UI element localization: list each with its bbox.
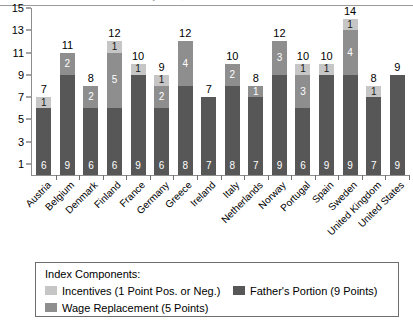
bar-segment-incentives: 1 [107, 41, 122, 52]
bar-group[interactable]: 167 [36, 8, 51, 175]
bar-stack: 1269 [154, 75, 169, 175]
bar-segment-value: 3 [295, 87, 310, 97]
bar-group[interactable]: 14914 [343, 8, 358, 175]
bar-segment-value: 1 [154, 75, 169, 85]
bar-group[interactable]: 268 [83, 8, 98, 175]
bar-segment-wage: 4 [178, 41, 193, 86]
bar-stack: 2911 [60, 53, 75, 175]
bar-segment-wage: 2 [83, 86, 98, 108]
bar-stack: 167 [36, 97, 51, 175]
bar-segment-father: 6 [295, 108, 310, 175]
bar-total-label: 10 [219, 51, 246, 62]
bar-total-label: 10 [313, 51, 340, 62]
bar-group[interactable]: 178 [366, 8, 381, 175]
bar-segment-value: 9 [60, 161, 75, 171]
bar-segment-father: 9 [390, 75, 405, 175]
bar-total-label: 9 [384, 62, 411, 73]
bar-segment-value: 1 [36, 98, 51, 108]
legend-label-wage-replacement: Wage Replacement (5 Points) [62, 302, 208, 314]
y-axis-tick-label: 7 [0, 92, 24, 103]
bar-segment-father: 6 [107, 108, 122, 175]
legend-title: Index Components: [45, 268, 140, 280]
legend-swatch-wage-replacement [45, 303, 57, 312]
legend-swatch-incentives [45, 286, 57, 295]
bar-segment-value: 4 [178, 59, 193, 69]
bar-segment-value: 8 [225, 161, 240, 171]
bar-stack: 14914 [343, 19, 358, 175]
bar-segment-value: 7 [366, 161, 381, 171]
bar-stack: 178 [248, 86, 263, 175]
bar-segment-value: 6 [83, 161, 98, 171]
bar-group[interactable]: 13610 [295, 8, 310, 175]
bar-group[interactable]: 1910 [131, 8, 146, 175]
bar-segment-value: 1 [107, 42, 122, 52]
bar-segment-father: 9 [60, 75, 75, 175]
bar-segment-value: 2 [225, 70, 240, 80]
bar-segment-wage: 2 [60, 53, 75, 75]
bar-segment-value: 9 [343, 161, 358, 171]
bar-segment-value: 6 [295, 161, 310, 171]
bar-segment-incentives: 1 [131, 64, 146, 75]
y-axis-tick-label: 9 [0, 70, 24, 81]
bar-segment-incentives: 1 [154, 75, 169, 86]
bar-group[interactable]: 15612 [107, 8, 122, 175]
bar-stack: 268 [83, 86, 98, 175]
bar-group[interactable]: 1910 [319, 8, 334, 175]
bar-group[interactable]: 77 [201, 8, 216, 175]
bar-segment-father: 7 [201, 97, 216, 175]
bar-group[interactable]: 3912 [272, 8, 287, 175]
bar-segment-value: 2 [83, 92, 98, 102]
bar-segment-wage: 3 [272, 41, 287, 74]
bar-group[interactable]: 99 [390, 8, 405, 175]
bar-segment-value: 9 [272, 161, 287, 171]
y-axis-tick-mark [26, 52, 31, 53]
y-axis-tick-mark [26, 163, 31, 164]
y-axis-tick-label: 15 [0, 3, 24, 14]
bar-group[interactable]: 2911 [60, 8, 75, 175]
bar-total-label: 12 [172, 28, 199, 39]
x-axis-label: Ireland [189, 180, 218, 209]
bar-total-label: 8 [242, 73, 269, 84]
bar-stack: 99 [390, 75, 405, 175]
bar-segment-father: 6 [36, 108, 51, 175]
legend-label-incentives: Incentives (1 Point Pos. or Neg.) [62, 285, 220, 297]
bar-total-label: 8 [77, 73, 104, 84]
y-axis-tick-labels: 13579111315 [0, 8, 24, 180]
bar-segment-value: 1 [248, 87, 263, 97]
bar-total-label: 8 [360, 73, 387, 84]
bar-total-label: 10 [125, 51, 152, 62]
bar-segment-incentives: 1 [319, 64, 334, 75]
bar-segment-value: 1 [319, 64, 334, 74]
bar-segment-father: 6 [154, 108, 169, 175]
bar-segment-value: 6 [107, 161, 122, 171]
bar-group[interactable]: 178 [248, 8, 263, 175]
bar-segment-father: 8 [225, 86, 240, 175]
bar-group[interactable]: 2810 [225, 8, 240, 175]
bar-total-label: 14 [337, 6, 364, 17]
bar-stack: 1910 [131, 64, 146, 175]
chart-plot-area: 13579111315 1672911268156121910126948127… [0, 8, 413, 180]
bar-segment-value: 8 [178, 161, 193, 171]
bar-segment-value: 9 [390, 161, 405, 171]
bar-segment-father: 9 [272, 75, 287, 175]
y-axis-tick-mark [26, 74, 31, 75]
bar-segment-value: 1 [131, 64, 146, 74]
y-axis-tick-label: 1 [0, 159, 24, 170]
bar-segment-father: 7 [366, 97, 381, 175]
y-axis-tick-label: 13 [0, 25, 24, 36]
bar-group[interactable]: 1269 [154, 8, 169, 175]
bar-stack: 15612 [107, 41, 122, 175]
chart-title: Parental Leave Policy Index, 2005 [70, 0, 207, 1]
bar-total-label: 7 [30, 84, 57, 95]
y-axis-tick-label: 3 [0, 137, 24, 148]
bar-segment-value: 1 [295, 64, 310, 74]
bar-group[interactable]: 4812 [178, 8, 193, 175]
bar-segment-value: 9 [131, 161, 146, 171]
x-axis-category-labels: AustriaBelgiumDenmarkFinlandFranceGerman… [32, 180, 409, 250]
bar-segment-incentives: 1 [343, 19, 358, 30]
bar-segment-wage: 2 [225, 64, 240, 86]
chart-legend: Index Components: Incentives (1 Point Po… [35, 262, 399, 317]
bar-segment-incentives: 1 [366, 86, 381, 97]
bar-segment-incentives: 1 [295, 64, 310, 75]
bar-total-label: 12 [266, 28, 293, 39]
